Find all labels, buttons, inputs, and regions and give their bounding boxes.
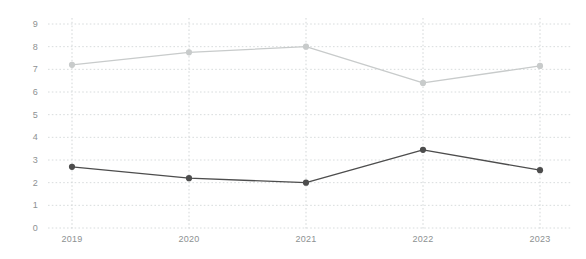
x-axis-tick-label: 2022	[413, 234, 434, 244]
x-axis-tick-label: 2021	[296, 234, 317, 244]
x-axis-tick-label: 2020	[179, 234, 200, 244]
x-axis: 20192020202120222023	[0, 0, 586, 259]
line-chart: 9876543210 20192020202120222023	[0, 0, 586, 259]
x-axis-tick-label: 2019	[62, 234, 83, 244]
x-axis-tick-label: 2023	[530, 234, 551, 244]
